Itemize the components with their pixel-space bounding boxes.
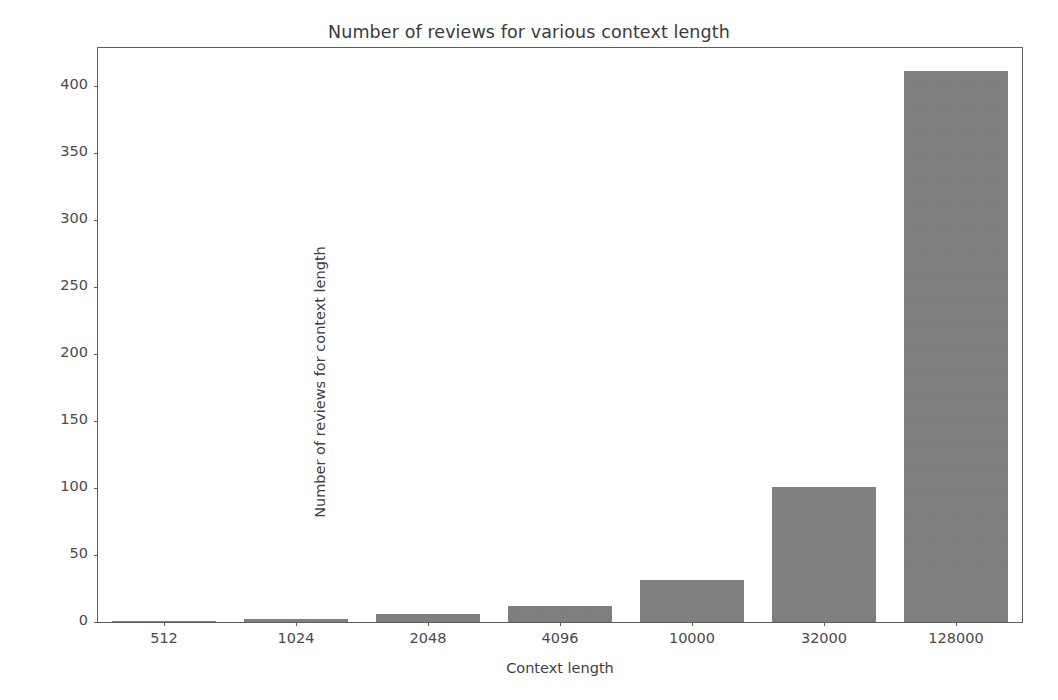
bar-4096 <box>508 606 612 622</box>
x-tick-label: 10000 <box>632 630 752 646</box>
bar-10000 <box>640 580 744 622</box>
x-axis-label: Context length <box>97 660 1023 676</box>
bar-chart-figure: Number of reviews for various context le… <box>0 0 1058 700</box>
x-tick-mark <box>956 622 957 626</box>
y-tick-mark <box>94 488 98 489</box>
chart-title: Number of reviews for various context le… <box>0 22 1058 42</box>
y-tick-mark <box>94 622 98 623</box>
x-tick-mark <box>560 622 561 626</box>
y-tick-label: 300 <box>28 210 88 226</box>
y-tick-label: 0 <box>28 612 88 628</box>
x-tick-label: 128000 <box>896 630 1016 646</box>
x-tick-mark <box>824 622 825 626</box>
y-tick-mark <box>94 555 98 556</box>
y-tick-label: 200 <box>28 344 88 360</box>
x-tick-label: 1024 <box>236 630 356 646</box>
y-tick-label: 100 <box>28 478 88 494</box>
x-tick-mark <box>428 622 429 626</box>
bar-2048 <box>376 614 480 622</box>
y-axis-label: Number of reviews for context length <box>312 94 328 670</box>
y-tick-label: 350 <box>28 143 88 159</box>
bar-128000 <box>904 71 1008 622</box>
y-tick-label: 400 <box>28 76 88 92</box>
y-tick-label: 150 <box>28 411 88 427</box>
y-tick-mark <box>94 287 98 288</box>
x-tick-mark <box>164 622 165 626</box>
y-tick-mark <box>94 220 98 221</box>
y-tick-mark <box>94 421 98 422</box>
y-tick-mark <box>94 86 98 87</box>
y-tick-label: 50 <box>28 545 88 561</box>
x-tick-label: 512 <box>104 630 224 646</box>
y-tick-label: 250 <box>28 277 88 293</box>
x-tick-mark <box>692 622 693 626</box>
plot-inner <box>98 48 1022 622</box>
bar-32000 <box>772 487 876 622</box>
x-tick-mark <box>296 622 297 626</box>
y-tick-mark <box>94 354 98 355</box>
x-tick-label: 32000 <box>764 630 884 646</box>
y-tick-mark <box>94 153 98 154</box>
x-tick-label: 2048 <box>368 630 488 646</box>
x-tick-label: 4096 <box>500 630 620 646</box>
plot-area: 0501001502002503003504005121024204840961… <box>97 47 1023 623</box>
